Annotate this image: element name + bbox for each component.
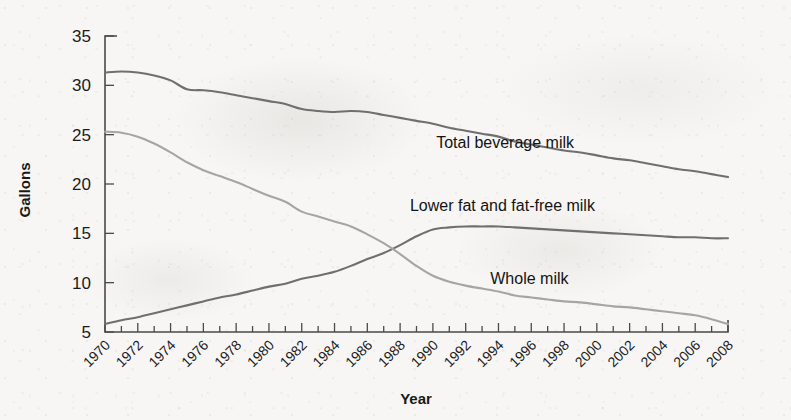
axis-frame <box>105 36 728 332</box>
x-tick-label: 1982 <box>277 337 310 370</box>
x-axis-title: Year <box>400 390 432 407</box>
y-tick-label: 15 <box>72 224 91 243</box>
y-tick-label: 10 <box>72 274 91 293</box>
x-tick-label: 1976 <box>178 337 211 370</box>
x-tick-label: 2008 <box>703 337 736 370</box>
x-axis-tick-labels: 1970197219741976197819801982198419861988… <box>80 337 736 370</box>
x-tick-label: 1986 <box>342 337 375 370</box>
x-tick-label: 1984 <box>309 337 342 370</box>
x-tick-label: 1978 <box>211 337 244 370</box>
x-tick-label: 1990 <box>408 337 441 370</box>
y-tick-label: 25 <box>72 126 91 145</box>
x-tick-label: 1972 <box>113 337 146 370</box>
series-label: Whole milk <box>490 270 569 287</box>
x-tick-label: 1994 <box>473 337 506 370</box>
x-tick-label: 2000 <box>572 337 605 370</box>
x-tick-label: 1980 <box>244 337 277 370</box>
x-tick-label: 1998 <box>539 337 572 370</box>
x-tick-label: 1996 <box>506 337 539 370</box>
series-line <box>105 226 728 324</box>
x-tick-label: 1974 <box>145 337 178 370</box>
series-line <box>105 72 728 178</box>
y-axis-tick-labels: 5101520253035 <box>72 27 91 342</box>
y-axis-title: Gallons <box>16 162 33 217</box>
x-tick-label: 2004 <box>637 337 670 370</box>
axis-tick-marks <box>105 36 728 332</box>
series-label: Lower fat and fat-free milk <box>410 197 596 214</box>
x-tick-label: 2002 <box>604 337 637 370</box>
chart-canvas: 5101520253035 19701972197419761978198019… <box>0 0 791 420</box>
y-tick-label: 5 <box>82 323 91 342</box>
series-inline-labels: Total beverage milkLower fat and fat-fre… <box>410 134 596 286</box>
y-tick-label: 35 <box>72 27 91 46</box>
y-tick-label: 20 <box>72 175 91 194</box>
x-tick-label: 2006 <box>670 337 703 370</box>
series-label: Total beverage milk <box>436 134 575 151</box>
line-chart-milk-consumption: 5101520253035 19701972197419761978198019… <box>0 0 791 420</box>
x-tick-label: 1988 <box>375 337 408 370</box>
y-tick-label: 30 <box>72 76 91 95</box>
x-tick-label: 1992 <box>440 337 473 370</box>
